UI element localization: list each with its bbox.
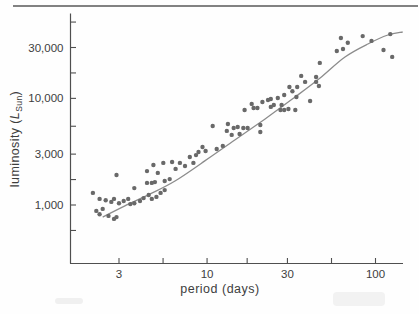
data-point bbox=[303, 80, 307, 84]
x-axis-title: period (days) bbox=[180, 282, 259, 296]
data-point bbox=[161, 161, 165, 165]
data-point bbox=[153, 180, 157, 184]
data-point bbox=[388, 32, 392, 36]
data-point bbox=[241, 126, 245, 130]
data-point bbox=[163, 188, 167, 192]
chart-plot-area: 310301001,0003,00010,00030,000 bbox=[28, 14, 403, 281]
data-point bbox=[128, 202, 132, 206]
data-point bbox=[317, 84, 321, 88]
data-point bbox=[269, 97, 273, 101]
data-point bbox=[341, 47, 345, 51]
data-point bbox=[104, 198, 108, 202]
data-point bbox=[114, 173, 118, 177]
data-point bbox=[191, 161, 195, 165]
trend-curve bbox=[103, 32, 403, 217]
x-tick-label: 30 bbox=[281, 268, 294, 280]
y-axis-title-prefix: luminosity ( bbox=[8, 119, 22, 187]
data-point bbox=[260, 100, 264, 104]
data-point bbox=[145, 169, 149, 173]
period-luminosity-chart: 310301001,0003,00010,00030,000 period (d… bbox=[0, 0, 419, 314]
figure-page: 310301001,0003,00010,00030,000 period (d… bbox=[0, 0, 419, 314]
data-point bbox=[290, 89, 294, 93]
data-point bbox=[381, 48, 385, 52]
data-point bbox=[272, 103, 276, 107]
data-point bbox=[282, 108, 286, 112]
data-point bbox=[150, 197, 154, 201]
y-tick-label: 1,000 bbox=[35, 199, 64, 211]
y-tick-label: 30,000 bbox=[28, 42, 63, 54]
data-point bbox=[188, 155, 192, 159]
data-point bbox=[308, 99, 312, 103]
data-point bbox=[112, 197, 116, 201]
data-point bbox=[170, 160, 174, 164]
data-point bbox=[236, 125, 240, 129]
data-point bbox=[196, 150, 200, 154]
data-point bbox=[318, 61, 322, 65]
data-point bbox=[211, 124, 215, 128]
data-point bbox=[178, 161, 182, 165]
y-axis-title-symbol: L bbox=[8, 112, 22, 119]
data-point bbox=[258, 130, 262, 134]
y-axis-title-subscript: Sun bbox=[14, 95, 24, 111]
data-point bbox=[141, 196, 145, 200]
scan-artifact-right bbox=[333, 292, 385, 306]
data-point bbox=[390, 55, 394, 59]
data-point bbox=[245, 126, 249, 130]
data-point bbox=[237, 132, 241, 136]
data-point bbox=[91, 191, 95, 195]
data-point bbox=[145, 181, 149, 185]
data-point bbox=[339, 36, 343, 40]
data-point bbox=[114, 215, 118, 219]
data-point bbox=[287, 85, 291, 89]
y-tick-label: 3,000 bbox=[35, 148, 64, 160]
x-tick-label: 10 bbox=[201, 268, 214, 280]
data-point bbox=[203, 149, 207, 153]
x-tick-label: 100 bbox=[366, 268, 385, 280]
data-point bbox=[295, 85, 299, 89]
data-point bbox=[299, 74, 303, 78]
data-point bbox=[101, 207, 105, 211]
data-point bbox=[158, 191, 162, 195]
data-point bbox=[173, 167, 177, 171]
data-point bbox=[242, 108, 246, 112]
data-point bbox=[361, 34, 365, 38]
data-point bbox=[255, 106, 259, 110]
data-point bbox=[221, 144, 225, 148]
data-point bbox=[122, 199, 126, 203]
data-point bbox=[232, 126, 236, 130]
scan-artifact-left bbox=[55, 298, 83, 304]
y-axis-title-suffix: ) bbox=[8, 91, 22, 96]
data-point bbox=[250, 102, 254, 106]
data-point bbox=[97, 212, 101, 216]
data-point bbox=[276, 96, 280, 100]
data-point bbox=[226, 122, 230, 126]
data-point bbox=[168, 177, 172, 181]
data-point bbox=[97, 197, 101, 201]
data-point bbox=[346, 41, 350, 45]
data-point bbox=[258, 123, 262, 127]
data-point bbox=[200, 145, 204, 149]
data-point bbox=[163, 179, 167, 183]
data-point bbox=[132, 186, 136, 190]
data-point bbox=[126, 197, 130, 201]
data-point bbox=[293, 108, 297, 112]
y-axis-title: luminosity (LSun) bbox=[8, 91, 24, 187]
x-tick-label: 3 bbox=[116, 268, 122, 280]
data-point bbox=[369, 39, 373, 43]
data-point bbox=[156, 171, 160, 175]
data-point bbox=[151, 163, 155, 167]
data-point bbox=[314, 75, 318, 79]
data-point bbox=[147, 193, 151, 197]
data-point bbox=[106, 214, 110, 218]
data-point bbox=[230, 133, 234, 137]
data-point bbox=[132, 201, 136, 205]
data-point bbox=[215, 147, 219, 151]
data-point bbox=[286, 107, 290, 111]
data-point bbox=[154, 195, 158, 199]
data-point bbox=[279, 103, 283, 107]
data-point bbox=[294, 95, 298, 99]
data-point bbox=[335, 49, 339, 53]
data-point bbox=[94, 209, 98, 213]
data-point bbox=[138, 199, 142, 203]
y-tick-label: 10,000 bbox=[28, 92, 63, 104]
